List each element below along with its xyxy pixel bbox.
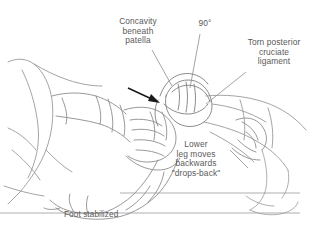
examiner-torso <box>4 59 102 204</box>
concavity-arrow <box>128 88 160 103</box>
label-foot-stabilized: Foot stabilized <box>64 210 154 220</box>
examiner-sleeve <box>52 93 130 142</box>
label-ninety-degrees: 90° <box>188 19 222 29</box>
medical-illustration-figure: Concavity beneath patella 90° Torn poste… <box>0 0 324 240</box>
knee-joint <box>155 73 212 126</box>
label-torn-posterior-cruciate-ligament: Torn posterior cruciate ligament <box>228 38 320 67</box>
supporting-hand <box>232 118 267 160</box>
label-lower-leg-drops-back: Lower leg moves backwards "drops-back" <box>163 140 229 178</box>
label-concavity-beneath-patella: Concavity beneath patella <box>96 17 180 46</box>
